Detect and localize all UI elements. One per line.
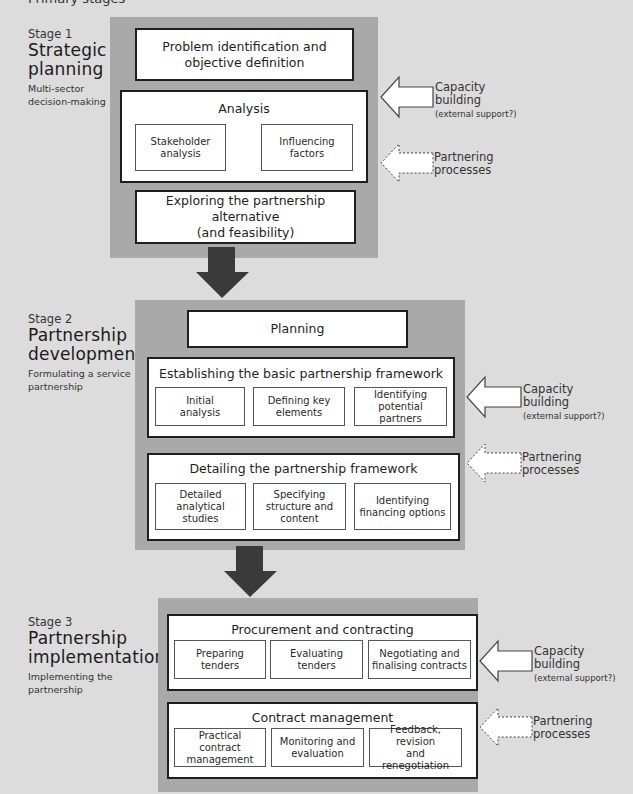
capacity-building-arrow-icon bbox=[466, 376, 524, 418]
stage-2-label: Stage 2 Partnership development Formulat… bbox=[28, 312, 133, 393]
partnering-line2: processes bbox=[533, 728, 593, 741]
subbox-line1: Monitoring and bbox=[280, 736, 355, 748]
box-exploring-partnership: Exploring the partnership alternative (a… bbox=[135, 190, 356, 244]
subbox-line3: content bbox=[280, 513, 318, 525]
stage-3-partnering-label: Partnering processes bbox=[533, 715, 593, 741]
stage-2-name-line2: development bbox=[28, 345, 133, 364]
capacity-building-arrow-icon bbox=[380, 76, 436, 118]
subbox-line1: Stakeholder bbox=[151, 136, 211, 148]
stage-1-partnering-label: Partnering processes bbox=[434, 151, 494, 177]
subbox-line2: tenders bbox=[201, 660, 239, 672]
capacity-note: (external support?) bbox=[435, 107, 516, 121]
partnering-line2: processes bbox=[434, 164, 494, 177]
stage-1-capacity-label: Capacity building (external support?) bbox=[435, 81, 516, 121]
subbox-line2: management bbox=[187, 754, 254, 766]
stage-3-name-line1: Partnership bbox=[28, 629, 153, 648]
stage-3-number: Stage 3 bbox=[28, 615, 153, 629]
stage-2-number: Stage 2 bbox=[28, 312, 133, 326]
capacity-line2: building bbox=[435, 94, 516, 107]
subbox-line2: finalising contracts bbox=[372, 660, 467, 672]
subbox-line1: Identifying bbox=[376, 495, 429, 507]
subbox-line2: tenders bbox=[297, 660, 335, 672]
diagram-title: Primary stages bbox=[28, 0, 125, 6]
subbox-line1: Defining key bbox=[268, 395, 331, 407]
box-planning: Planning bbox=[187, 310, 408, 348]
subbox-evaluating-tenders: Evaluating tenders bbox=[270, 640, 363, 679]
subbox-line2: elements bbox=[276, 407, 322, 419]
subbox-line2: financing options bbox=[359, 507, 445, 519]
subbox-line2: potential partners bbox=[357, 401, 444, 425]
box-title-line2: objective definition bbox=[185, 55, 305, 71]
subbox-line1: Evaluating bbox=[290, 648, 343, 660]
subbox-feedback-revision: Feedback, revision and renegotiation bbox=[369, 728, 462, 767]
stage-3-name-line2: implementation bbox=[28, 648, 153, 667]
subbox-line1: Practical contract bbox=[177, 730, 263, 754]
subbox-line1: Detailed bbox=[180, 489, 222, 501]
capacity-line2: building bbox=[534, 658, 615, 671]
flow-arrow-down-icon bbox=[195, 247, 251, 299]
subbox-identifying-partners: Identifying potential partners bbox=[354, 387, 447, 426]
partnering-line2: processes bbox=[522, 464, 582, 477]
box-problem-identification: Problem identification and objective def… bbox=[135, 28, 354, 81]
subbox-detailed-studies: Detailed analytical studies bbox=[155, 483, 246, 530]
capacity-building-arrow-icon bbox=[479, 640, 535, 682]
subbox-stakeholder-analysis: Stakeholder analysis bbox=[135, 124, 226, 171]
subbox-line2: and renegotiation bbox=[372, 748, 459, 772]
subbox-preparing-tenders: Preparing tenders bbox=[174, 640, 266, 679]
stage-2-partnering-label: Partnering processes bbox=[522, 451, 582, 477]
subbox-influencing-factors: Influencing factors bbox=[261, 124, 353, 171]
stage-3-capacity-label: Capacity building (external support?) bbox=[534, 645, 615, 685]
stage-2-desc: Formulating a service partnership bbox=[28, 367, 133, 393]
subbox-line2: evaluation bbox=[291, 748, 344, 760]
box-procurement-title: Procurement and contracting bbox=[169, 622, 476, 638]
subbox-line2: analysis bbox=[180, 407, 221, 419]
subbox-line2: analytical studies bbox=[158, 501, 243, 525]
subbox-specifying-structure: Specifying structure and content bbox=[253, 483, 346, 530]
box-title-line1: Exploring the partnership alternative bbox=[137, 193, 354, 225]
capacity-line2: building bbox=[523, 396, 604, 409]
subbox-negotiating-contracts: Negotiating and finalising contracts bbox=[368, 640, 471, 679]
subbox-practical-contract-management: Practical contract management bbox=[174, 728, 266, 767]
subbox-line2: structure and bbox=[266, 501, 333, 513]
subbox-initial-analysis: Initial analysis bbox=[155, 387, 245, 426]
capacity-note: (external support?) bbox=[523, 409, 604, 423]
subbox-line1: Identifying bbox=[374, 389, 427, 401]
subbox-line1: Negotiating and bbox=[379, 648, 459, 660]
box-title-line2: (and feasibility) bbox=[197, 225, 295, 241]
stage-3-desc-line1: Implementing the bbox=[28, 670, 153, 683]
stage-3-label: Stage 3 Partnership implementation Imple… bbox=[28, 615, 153, 696]
capacity-note: (external support?) bbox=[534, 671, 615, 685]
subbox-line1: Specifying bbox=[274, 489, 326, 501]
stage-2-desc-line2: partnership bbox=[28, 380, 133, 393]
box-title-line1: Problem identification and bbox=[162, 39, 326, 55]
partnering-processes-arrow-icon bbox=[380, 144, 436, 184]
stage-2-capacity-label: Capacity building (external support?) bbox=[523, 383, 604, 423]
flow-arrow-down-icon bbox=[223, 546, 279, 598]
subbox-line1: Influencing bbox=[279, 136, 334, 148]
partnering-processes-arrow-icon bbox=[479, 708, 535, 748]
box-establishing-title: Establishing the basic partnership frame… bbox=[149, 366, 453, 382]
stage-3-desc: Implementing the partnership bbox=[28, 670, 153, 696]
subbox-monitoring-evaluation: Monitoring and evaluation bbox=[271, 728, 364, 767]
subbox-line1: Initial bbox=[186, 395, 214, 407]
stage-2-name-line1: Partnership bbox=[28, 326, 133, 345]
subbox-line2: analysis bbox=[160, 148, 201, 160]
stage-3-desc-line2: partnership bbox=[28, 683, 153, 696]
subbox-line1: Preparing bbox=[196, 648, 244, 660]
stage-2-desc-line1: Formulating a service bbox=[28, 367, 133, 380]
box-planning-title: Planning bbox=[271, 321, 325, 337]
subbox-line1: Feedback, revision bbox=[372, 724, 459, 748]
partnering-processes-arrow-icon bbox=[466, 444, 524, 484]
subbox-line2: factors bbox=[290, 148, 325, 160]
box-analysis-title: Analysis bbox=[122, 101, 366, 117]
subbox-defining-key-elements: Defining key elements bbox=[253, 387, 345, 426]
box-detailing-title: Detailing the partnership framework bbox=[149, 461, 458, 477]
subbox-financing-options: Identifying financing options bbox=[354, 483, 451, 530]
